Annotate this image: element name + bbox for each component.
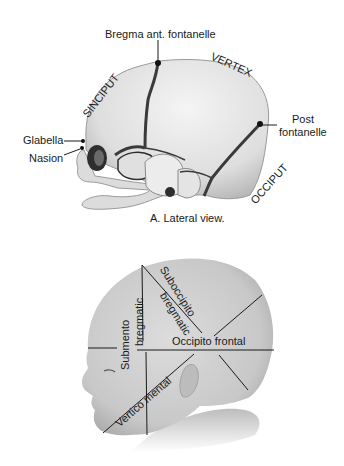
submento-bregmatic-label-line1: Submento xyxy=(119,320,131,370)
occipito-frontal-label: Occipito frontal xyxy=(172,335,245,347)
submento-bregmatic-label-line2: bregmatic xyxy=(133,298,145,346)
head-diameters-figure: Suboccipito bregmatic Submento bregmatic… xyxy=(0,230,344,466)
glabella-label: Glabella xyxy=(23,134,63,146)
nasion-label: Nasion xyxy=(29,152,63,164)
skull-lateral-view-figure: Bregma ant. fontanelle VERTEX SINCIPUT P… xyxy=(0,0,344,230)
figure-a-caption: A. Lateral view. xyxy=(150,212,225,224)
infant-head-illustration xyxy=(0,230,344,466)
bregma-label: Bregma ant. fontanelle xyxy=(105,28,216,40)
post-fontanelle-label-line1: Post xyxy=(292,113,314,125)
post-fontanelle-label-line2: fontanelle xyxy=(279,126,327,138)
